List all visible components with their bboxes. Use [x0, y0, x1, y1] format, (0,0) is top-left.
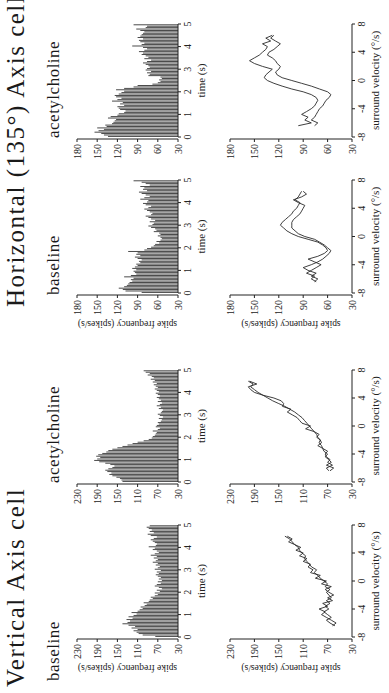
vertical-acetylcholine-velocity: 3070110150190230-8-4048surround velocity… [225, 368, 383, 505]
horizontal-acetylcholine-histogram: 306090120150180012345time (s) [72, 22, 209, 160]
svg-text:-8: -8 [356, 289, 367, 297]
svg-text:spike frequency (spikes/s): spike frequency (spikes/s) [241, 318, 340, 329]
svg-text:110: 110 [298, 644, 309, 659]
svg-text:110: 110 [132, 644, 143, 659]
svg-text:2: 2 [182, 590, 193, 595]
svg-text:120: 120 [112, 144, 123, 159]
svg-text:surround velocity (°/s): surround velocity (°/s) [369, 376, 382, 475]
svg-text:180: 180 [225, 300, 236, 315]
svg-text:2: 2 [182, 435, 193, 440]
svg-text:30: 30 [347, 489, 358, 499]
svg-text:0: 0 [356, 78, 367, 83]
svg-text:120: 120 [273, 144, 284, 159]
svg-text:spike frequency (spikes/s): spike frequency (spikes/s) [78, 662, 177, 673]
svg-text:110: 110 [298, 489, 309, 504]
svg-text:70: 70 [322, 644, 333, 654]
svg-text:150: 150 [92, 144, 103, 159]
svg-text:150: 150 [249, 300, 260, 315]
svg-text:2: 2 [182, 245, 193, 250]
svg-text:time (s): time (s) [195, 409, 208, 443]
svg-text:180: 180 [72, 144, 83, 159]
horizontal-baseline-velocity: 306090120150180spike frequency (spikes/s… [225, 178, 383, 330]
svg-text:70: 70 [152, 644, 163, 654]
svg-text:30: 30 [173, 144, 184, 154]
svg-text:8: 8 [356, 178, 367, 183]
svg-text:90: 90 [298, 300, 309, 310]
svg-text:-8: -8 [356, 633, 367, 641]
svg-text:110: 110 [132, 489, 143, 504]
svg-text:60: 60 [152, 144, 163, 154]
svg-text:90: 90 [132, 300, 143, 310]
svg-text:5: 5 [182, 22, 193, 27]
svg-text:-8: -8 [356, 133, 367, 141]
svg-text:230: 230 [225, 644, 236, 659]
svg-text:60: 60 [322, 144, 333, 154]
svg-text:30: 30 [347, 144, 358, 154]
svg-text:150: 150 [112, 644, 123, 659]
svg-text:150: 150 [112, 489, 123, 504]
svg-text:150: 150 [249, 144, 260, 159]
svg-text:30: 30 [173, 300, 184, 310]
svg-text:150: 150 [273, 644, 284, 659]
svg-text:1: 1 [182, 112, 193, 117]
vertical-acetylcholine-histogram: 3070110150190230012345time (s) [72, 368, 209, 505]
svg-text:60: 60 [322, 300, 333, 310]
svg-text:30: 30 [347, 300, 358, 310]
svg-text:230: 230 [225, 489, 236, 504]
svg-text:60: 60 [152, 300, 163, 310]
svg-text:4: 4 [356, 551, 367, 556]
horizontal-baseline-histogram: 306090120150180spike frequency (spikes/s… [72, 178, 209, 330]
plot-canvas: 3070110150190230spike frequency (spikes/… [0, 0, 389, 693]
svg-text:230: 230 [72, 644, 83, 659]
svg-text:120: 120 [112, 300, 123, 315]
svg-text:190: 190 [92, 489, 103, 504]
figure: Vertical Axis cell Horizontal (135°) Axi… [0, 0, 389, 693]
svg-text:120: 120 [273, 300, 284, 315]
svg-text:30: 30 [347, 644, 358, 654]
svg-text:8: 8 [356, 22, 367, 27]
svg-text:90: 90 [298, 144, 309, 154]
svg-text:1: 1 [182, 268, 193, 273]
svg-text:3: 3 [182, 567, 193, 572]
svg-text:90: 90 [132, 144, 143, 154]
svg-text:3: 3 [182, 67, 193, 72]
svg-text:190: 190 [92, 644, 103, 659]
svg-text:5: 5 [182, 523, 193, 528]
svg-text:-4: -4 [356, 105, 367, 113]
svg-text:1: 1 [182, 612, 193, 617]
svg-text:8: 8 [356, 368, 367, 373]
svg-text:-4: -4 [356, 450, 367, 458]
svg-text:0: 0 [182, 291, 193, 296]
svg-text:0: 0 [356, 579, 367, 584]
svg-text:spike frequency (spikes/s): spike frequency (spikes/s) [78, 318, 177, 329]
svg-text:30: 30 [173, 644, 184, 654]
svg-text:3: 3 [182, 412, 193, 417]
svg-text:4: 4 [356, 396, 367, 401]
svg-text:4: 4 [182, 545, 193, 550]
svg-text:0: 0 [182, 480, 193, 485]
svg-text:time (s): time (s) [195, 63, 208, 97]
svg-text:70: 70 [152, 489, 163, 499]
svg-text:180: 180 [72, 300, 83, 315]
svg-text:4: 4 [182, 390, 193, 395]
svg-text:180: 180 [225, 144, 236, 159]
svg-text:surround velocity (°/s): surround velocity (°/s) [369, 531, 382, 630]
vertical-baseline-velocity: 3070110150190230spike frequency (spikes/… [225, 523, 383, 674]
svg-text:5: 5 [182, 368, 193, 373]
svg-text:4: 4 [356, 50, 367, 55]
svg-text:0: 0 [182, 635, 193, 640]
svg-text:time (s): time (s) [195, 219, 208, 253]
svg-text:30: 30 [173, 489, 184, 499]
svg-text:-4: -4 [356, 261, 367, 269]
svg-text:190: 190 [249, 489, 260, 504]
svg-text:4: 4 [182, 44, 193, 49]
svg-text:-4: -4 [356, 605, 367, 613]
svg-text:5: 5 [182, 178, 193, 183]
svg-text:time (s): time (s) [195, 564, 208, 598]
svg-text:2: 2 [182, 89, 193, 94]
svg-text:-8: -8 [356, 478, 367, 486]
svg-text:3: 3 [182, 223, 193, 228]
svg-text:8: 8 [356, 523, 367, 528]
svg-text:surround velocity (°/s): surround velocity (°/s) [369, 187, 382, 286]
svg-text:0: 0 [182, 135, 193, 140]
